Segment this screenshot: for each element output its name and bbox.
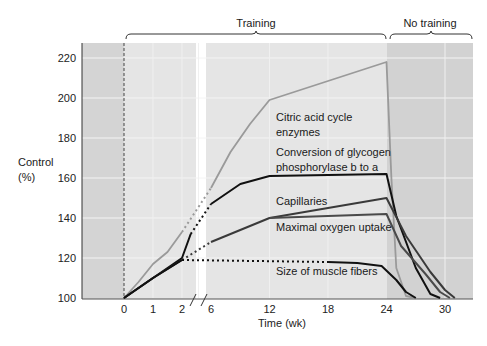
y-tick-label: 140 bbox=[58, 212, 76, 224]
y-tick-label: 160 bbox=[58, 172, 76, 184]
region-label-no-training: No training bbox=[403, 17, 456, 29]
region-brace bbox=[390, 31, 472, 39]
x-tick-label: 30 bbox=[439, 303, 451, 315]
y-tick-label: 200 bbox=[58, 92, 76, 104]
series-label-citric-acid-1: Citric acid cycle bbox=[276, 111, 352, 123]
y-tick-label: 180 bbox=[58, 132, 76, 144]
region-label-training: Training bbox=[236, 17, 275, 29]
series-label-max-oxygen: Maximal oxygen uptake bbox=[276, 221, 392, 233]
series-label-glycogen-2: phosphorylase b to a bbox=[276, 161, 379, 173]
y-tick-label: 220 bbox=[58, 52, 76, 64]
x-tick-label: 12 bbox=[263, 303, 275, 315]
series-label-muscle-fibers: Size of muscle fibers bbox=[276, 265, 378, 277]
series-label-glycogen-1: Conversion of glycogen bbox=[276, 146, 391, 158]
x-tick-label: 2 bbox=[179, 303, 185, 315]
y-axis-label-line2: (%) bbox=[18, 171, 35, 183]
x-tick-label: 18 bbox=[322, 303, 334, 315]
series-label-citric-acid-2: enzymes bbox=[276, 126, 321, 138]
y-tick-label: 100 bbox=[58, 292, 76, 304]
x-tick-label: 6 bbox=[208, 303, 214, 315]
y-tick-label: 120 bbox=[58, 252, 76, 264]
y-axis-label-line1: Control bbox=[18, 156, 53, 168]
chart: 100120140160180200220012612182430 Contro… bbox=[0, 0, 487, 346]
no-training-region bbox=[387, 43, 473, 299]
region-brace bbox=[126, 31, 386, 39]
x-tick-label: 0 bbox=[121, 303, 127, 315]
x-tick-label: 1 bbox=[150, 303, 156, 315]
series-label-capillaries: Capillaries bbox=[276, 195, 328, 207]
pre-training-region bbox=[82, 43, 124, 299]
x-axis-label: Time (wk) bbox=[258, 317, 306, 329]
x-tick-label: 24 bbox=[380, 303, 392, 315]
